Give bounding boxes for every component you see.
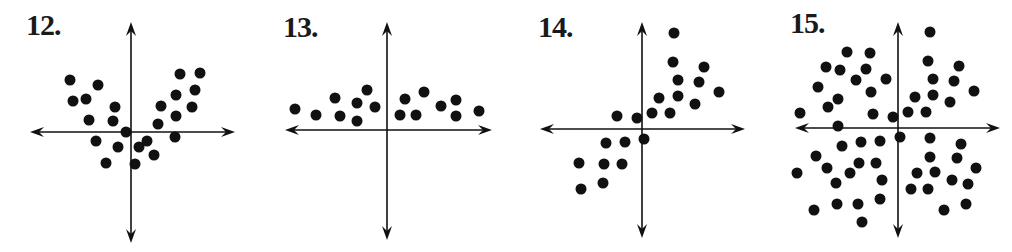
data-point <box>576 184 587 195</box>
data-point <box>68 96 79 107</box>
data-point <box>130 159 141 170</box>
data-point <box>821 62 832 73</box>
data-point <box>845 168 856 179</box>
data-point <box>923 56 934 67</box>
data-point <box>156 101 167 112</box>
data-point <box>647 108 658 119</box>
data-point <box>171 90 182 101</box>
data-point <box>290 104 301 115</box>
data-point <box>835 65 846 76</box>
data-point <box>187 102 198 113</box>
data-point <box>952 153 963 164</box>
data-point <box>370 102 381 113</box>
data-point <box>714 87 725 98</box>
data-point <box>673 75 684 86</box>
data-point <box>809 205 820 216</box>
data-point <box>939 205 950 216</box>
data-point <box>822 163 833 174</box>
data-point <box>335 111 346 122</box>
data-point <box>971 163 982 174</box>
data-point <box>436 101 447 112</box>
data-point <box>451 111 462 122</box>
data-point <box>190 85 201 96</box>
data-point <box>411 110 422 121</box>
data-point <box>311 110 322 121</box>
axes-12 <box>30 22 235 243</box>
data-point <box>153 119 164 130</box>
data-point <box>668 57 679 68</box>
data-point <box>451 95 462 106</box>
data-point <box>842 47 853 58</box>
data-point <box>574 158 585 169</box>
data-point <box>833 121 844 132</box>
data-point <box>599 159 610 170</box>
data-point <box>923 184 934 195</box>
data-point <box>617 159 628 170</box>
data-point <box>474 106 485 117</box>
data-point <box>945 97 956 108</box>
data-point <box>362 85 373 96</box>
data-point <box>912 168 923 179</box>
data-point <box>903 107 914 118</box>
data-point <box>601 138 612 149</box>
data-point <box>961 199 972 210</box>
data-point <box>110 102 121 113</box>
data-point <box>175 69 186 80</box>
data-point <box>895 132 906 143</box>
data-point <box>954 61 965 72</box>
data-point <box>108 116 119 127</box>
scatter-plots <box>0 0 1012 252</box>
data-point <box>81 94 92 105</box>
data-point <box>400 94 411 105</box>
data-point <box>142 136 153 147</box>
data-point <box>170 132 181 143</box>
data-point <box>171 111 182 122</box>
axes-15 <box>792 22 1001 238</box>
data-point <box>352 98 363 109</box>
data-point <box>871 158 882 169</box>
axes-13 <box>285 22 492 240</box>
data-point <box>699 62 710 73</box>
data-point <box>823 102 834 113</box>
data-point <box>925 152 936 163</box>
data-point <box>930 167 941 178</box>
data-point <box>866 87 877 98</box>
data-point <box>792 168 803 179</box>
data-point <box>93 80 104 91</box>
data-point <box>669 28 680 39</box>
data-point <box>947 175 958 186</box>
data-point <box>832 199 843 210</box>
data-point <box>101 158 112 169</box>
data-point <box>91 136 102 147</box>
data-point <box>113 142 124 153</box>
data-point <box>856 137 867 148</box>
data-point <box>875 194 886 205</box>
data-point <box>632 113 643 124</box>
data-point <box>881 74 892 85</box>
data-point <box>861 64 872 75</box>
data-point <box>639 134 650 145</box>
data-point <box>149 150 160 161</box>
data-point <box>673 91 684 102</box>
data-point <box>963 179 974 190</box>
data-point <box>811 151 822 162</box>
data-point <box>928 90 939 101</box>
data-point <box>928 74 939 85</box>
data-point <box>868 109 879 120</box>
data-point <box>877 175 888 186</box>
data-point <box>654 93 665 104</box>
data-point <box>694 77 705 88</box>
data-point <box>969 86 980 97</box>
axes-14 <box>540 22 745 238</box>
data-point <box>949 76 960 87</box>
data-point <box>865 48 876 59</box>
data-point <box>906 184 917 195</box>
data-point <box>854 158 865 169</box>
data-point <box>330 93 341 104</box>
data-point <box>620 137 631 148</box>
data-point <box>65 75 76 86</box>
data-point <box>853 199 864 210</box>
data-point <box>84 115 95 126</box>
data-point <box>837 141 848 152</box>
data-point <box>956 139 967 150</box>
